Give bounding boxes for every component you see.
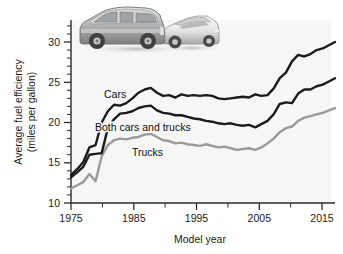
y-tick-label-30: 30 <box>48 36 60 48</box>
y-tick-label-25: 25 <box>48 76 60 88</box>
x-tick-label-2005: 2005 <box>248 212 272 224</box>
series-label-trucks: Trucks <box>132 146 163 158</box>
y-tick-label-20: 20 <box>48 116 60 128</box>
x-tick-label-2015: 2015 <box>310 212 334 224</box>
x-axis-title: Model year <box>174 233 226 245</box>
x-axis-major-ticks <box>71 203 322 210</box>
y-tick-label-15: 15 <box>48 156 60 168</box>
x-tick-label-1995: 1995 <box>185 212 209 224</box>
y-axis-title-line2: (miles per gallon) <box>25 72 37 153</box>
photo-suv-and-sedan <box>76 2 221 54</box>
x-tick-label-1975: 1975 <box>59 212 83 224</box>
series-label-cars: Cars <box>104 88 126 100</box>
y-axis-title-line1: Average fuel efficiency <box>12 59 24 165</box>
chart-figure: 10 15 20 25 30 1975 1985 1995 2005 2015 … <box>0 0 343 254</box>
series-label-both: Both cars and trucks <box>95 121 191 133</box>
x-tick-label-1985: 1985 <box>122 212 146 224</box>
y-tick-label-10: 10 <box>48 197 60 209</box>
